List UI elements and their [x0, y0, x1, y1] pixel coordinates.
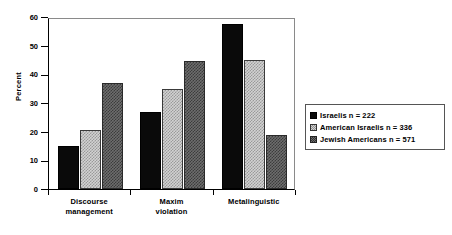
x-axis-tick [295, 190, 296, 195]
chart-figure: Percent 0102030405060 Discoursemanagemen… [0, 0, 452, 235]
y-axis-tick-label: 40 [12, 71, 38, 79]
bar [244, 60, 265, 189]
y-axis-tick-label: 10 [12, 157, 38, 165]
legend-label: American Israelis n = 336 [320, 123, 412, 132]
x-axis-category-line: violation [130, 207, 212, 217]
bar [58, 146, 79, 189]
legend-swatch-icon [310, 124, 317, 131]
y-axis-tick-label: 60 [12, 14, 38, 22]
x-axis-category-label: Metalinguistic [213, 197, 295, 207]
x-axis-tick [213, 190, 214, 195]
y-axis-tick [41, 189, 48, 190]
legend-item: Israelis n = 222 [310, 109, 440, 121]
legend-item: American Israelis n = 336 [310, 121, 440, 133]
y-axis-tick [41, 103, 48, 104]
y-axis-tick [41, 46, 48, 47]
x-axis-category-line: Maxim [130, 197, 212, 207]
legend-swatch-icon [310, 136, 317, 143]
y-axis-tick-label: 50 [12, 43, 38, 51]
x-axis-tick [130, 190, 131, 195]
bar [184, 61, 205, 189]
bar [102, 83, 123, 189]
x-axis-category-line: management [48, 207, 130, 217]
x-axis-category-label: Discoursemanagement [48, 197, 130, 217]
x-axis-category-label: Maximviolation [130, 197, 212, 217]
y-axis-tick-label: 0 [12, 186, 38, 194]
y-axis-tick [41, 75, 48, 76]
bar [162, 89, 183, 189]
plot-area [48, 18, 295, 190]
y-axis-tick [41, 161, 48, 162]
bar [222, 24, 243, 189]
legend-label: Jewish Americans n = 571 [320, 135, 415, 144]
bar [140, 112, 161, 189]
y-axis-tick-label: 20 [12, 129, 38, 137]
legend-label: Israelis n = 222 [320, 111, 375, 120]
x-axis-category-line: Metalinguistic [213, 197, 295, 207]
y-axis-title: Percent [14, 57, 23, 117]
y-axis-tick-label: 30 [12, 100, 38, 108]
legend-swatch-icon [310, 112, 317, 119]
chart-legend: Israelis n = 222American Israelis n = 33… [305, 104, 445, 150]
x-axis-category-line: Discourse [48, 197, 130, 207]
bar [266, 135, 287, 189]
bar [80, 130, 101, 189]
y-axis-tick [41, 17, 48, 18]
y-axis-tick [41, 132, 48, 133]
x-axis-tick [48, 190, 49, 195]
legend-item: Jewish Americans n = 571 [310, 133, 440, 145]
